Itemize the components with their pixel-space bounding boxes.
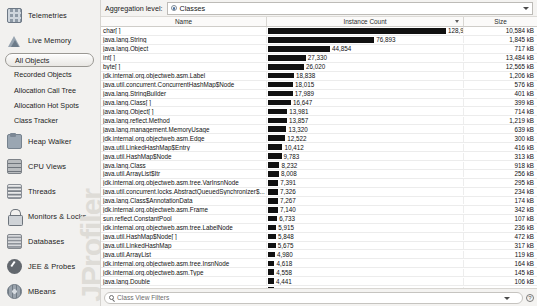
table-row[interactable]: jdk.internal.org.objectweb.asm.tree.Line…: [101, 286, 537, 288]
table-row[interactable]: java.util.HashMap$Node[ ]5,848472 kB: [101, 233, 537, 242]
cell-class-name: java.lang.reflect.Method: [101, 117, 267, 124]
table-row[interactable]: java.lang.String76,8931,845 kB: [101, 36, 537, 45]
sidebar-item-label: Class Tracker: [14, 116, 58, 125]
column-header-name[interactable]: Name: [101, 17, 267, 26]
table-row[interactable]: java.util.LinkedHashMap5,675317 kB: [101, 242, 537, 251]
chevron-down-icon[interactable]: [523, 7, 529, 10]
table-row[interactable]: java.util.concurrent.ConcurrentHashMap$N…: [101, 81, 537, 90]
table-row[interactable]: jdk.internal.org.objectweb.asm.Label18,8…: [101, 72, 537, 81]
jprofiler-watermark: JProfiler: [77, 189, 101, 302]
table-row[interactable]: java.util.LinkedHashMap$Entry10,412416 k…: [101, 143, 537, 152]
table-row[interactable]: java.lang.management.MemoryUsage13,32063…: [101, 125, 537, 134]
table-row[interactable]: java.lang.Object44,854717 kB: [101, 45, 537, 54]
table-row[interactable]: jdk.internal.org.objectweb.asm.tree.VarI…: [101, 179, 537, 188]
table-row[interactable]: java.lang.reflect.Method13,8571,219 kB: [101, 116, 537, 125]
probe-icon-shape: [7, 259, 22, 274]
instance-count-bar: [268, 37, 374, 43]
cell-instance-count: 4,558: [267, 269, 464, 276]
cell-instance-count: 4,980: [267, 251, 464, 258]
cell-instance-count: 7,140: [267, 206, 464, 213]
cell-class-name: java.lang.Object[ ]: [101, 108, 267, 115]
table-row[interactable]: jdk.internal.org.objectweb.asm.Type4,558…: [101, 268, 537, 277]
instance-count-value: 44,854: [332, 45, 351, 52]
sidebar-item-allocation-call-tree[interactable]: Allocation Call Tree: [0, 82, 100, 97]
chevron-down-icon[interactable]: [504, 297, 510, 300]
table-row[interactable]: byte[ ]26,02012,565 kB: [101, 63, 537, 72]
help-icon[interactable]: ?: [526, 294, 534, 302]
cell-instance-count: 13,320: [267, 126, 464, 133]
cell-class-name: jdk.internal.org.objectweb.asm.Frame: [101, 206, 267, 213]
table-row[interactable]: java.lang.Object[ ]13,981714 kB: [101, 107, 537, 116]
cell-class-name: java.util.concurrent.ConcurrentHashMap$N…: [101, 81, 267, 88]
cell-class-name: java.lang.String: [101, 36, 267, 43]
table-row[interactable]: jdk.internal.org.objectweb.asm.Edge12,52…: [101, 134, 537, 143]
table-row[interactable]: java.lang.Class[ ]16,647399 kB: [101, 99, 537, 108]
table-row[interactable]: java.util.ArrayList4,980119 kB: [101, 250, 537, 259]
cell-class-name: jdk.internal.org.objectweb.asm.Edge: [101, 135, 267, 142]
sidebar-item-recorded-objects[interactable]: Recorded Objects: [0, 67, 100, 82]
search-icon: [109, 295, 114, 300]
cell-instance-count: 5,848: [267, 233, 464, 240]
instance-count-bar: [268, 109, 287, 115]
instance-count-value: 7,391: [280, 179, 296, 186]
cell-class-name: jdk.internal.org.objectweb.asm.Type: [101, 269, 267, 276]
sidebar-item-allocation-hot-spots[interactable]: Allocation Hot Spots: [0, 98, 100, 113]
cell-class-name: java.lang.Object: [101, 45, 267, 52]
cell-class-name: java.util.LinkedHashMap$Entry: [101, 144, 267, 151]
class-table-body[interactable]: char[ ]128,93610,584 kBjava.lang.String7…: [101, 27, 537, 288]
table-row[interactable]: int[ ]27,33013,484 kB: [101, 54, 537, 63]
cell-size: 295 kB: [464, 179, 537, 186]
table-row[interactable]: java.lang.StringBuilder17,989401 kB: [101, 90, 537, 99]
instance-count-value: 76,893: [376, 36, 395, 43]
table-row[interactable]: jdk.internal.org.objectweb.asm.tree.Insn…: [101, 259, 537, 268]
instance-count-value: 4,397: [276, 287, 292, 288]
table-row[interactable]: java.lang.Double4,441106 kB: [101, 277, 537, 286]
table-row[interactable]: jdk.internal.org.objectweb.asm.tree.Labe…: [101, 224, 537, 233]
cell-size: 399 kB: [464, 99, 537, 106]
column-header-instance-count[interactable]: Instance Count: [267, 17, 464, 26]
aggregation-level-value: Classes: [180, 4, 206, 13]
sidebar-item-label: Heap Walker: [28, 137, 72, 146]
cell-instance-count: 26,020: [267, 63, 464, 70]
cell-size: 107 kB: [464, 215, 537, 222]
sidebar-item-class-tracker[interactable]: Class Tracker: [0, 113, 100, 128]
heap-walker-icon: [7, 134, 22, 149]
instance-count-bar: [268, 225, 276, 231]
table-row[interactable]: java.lang.Class8,232918 kB: [101, 161, 537, 170]
cell-class-name: java.lang.Double: [101, 278, 267, 285]
sort-descending-icon[interactable]: [455, 20, 459, 23]
instance-count-bar: [268, 73, 294, 79]
instance-count-bar: [268, 55, 306, 61]
table-row[interactable]: java.util.concurrent.locks.AbstractQueue…: [101, 188, 537, 197]
table-row[interactable]: jdk.internal.org.objectweb.asm.Frame7,14…: [101, 206, 537, 215]
table-row[interactable]: char[ ]128,93610,584 kB: [101, 27, 537, 36]
cell-class-name: java.util.HashMap$Node[ ]: [101, 233, 267, 240]
instance-count-bar: [268, 207, 278, 213]
cell-class-name: java.lang.Class[ ]: [101, 99, 267, 106]
sidebar-item-all-objects[interactable]: All Objects: [5, 53, 94, 67]
cell-instance-count: 4,441: [267, 278, 464, 285]
sidebar-item-live-memory[interactable]: Live Memory: [0, 28, 100, 53]
instance-count-value: 7,140: [280, 206, 296, 213]
sidebar-item-heap-walker[interactable]: Heap Walker: [0, 129, 100, 154]
cell-instance-count: 7,391: [267, 179, 464, 186]
cell-instance-count: 17,989: [267, 90, 464, 97]
table-row[interactable]: java.lang.Class$AnnotationData7,267174 k…: [101, 197, 537, 206]
main-panel: Aggregation level: Classes Name Instance…: [101, 0, 537, 306]
cell-instance-count: 6,733: [267, 215, 464, 222]
instance-count-value: 4,558: [276, 269, 292, 276]
column-header-size[interactable]: Size: [464, 17, 537, 26]
instance-count-value: 5,848: [278, 233, 294, 240]
table-row[interactable]: java.util.ArrayList$Itr8,008256 kB: [101, 170, 537, 179]
aggregation-level-select[interactable]: Classes: [167, 2, 533, 15]
sidebar-item-telemetries[interactable]: Telemetries: [0, 3, 100, 28]
sidebar-item-label: Threads: [28, 187, 56, 196]
sidebar-item-label: Telemetries: [28, 11, 67, 20]
table-row[interactable]: java.util.HashMap$Node9,783313 kB: [101, 152, 537, 161]
instance-count-bar: [268, 153, 282, 159]
lock-icon-shape: [7, 209, 22, 224]
sidebar-item-cpu-views[interactable]: CPU Views: [0, 154, 100, 179]
table-row[interactable]: sun.reflect.ConstantPool6,733107 kB: [101, 215, 537, 224]
class-view-filter-input[interactable]: Class View Filters: [104, 292, 523, 304]
instance-count-bar: [268, 243, 276, 249]
